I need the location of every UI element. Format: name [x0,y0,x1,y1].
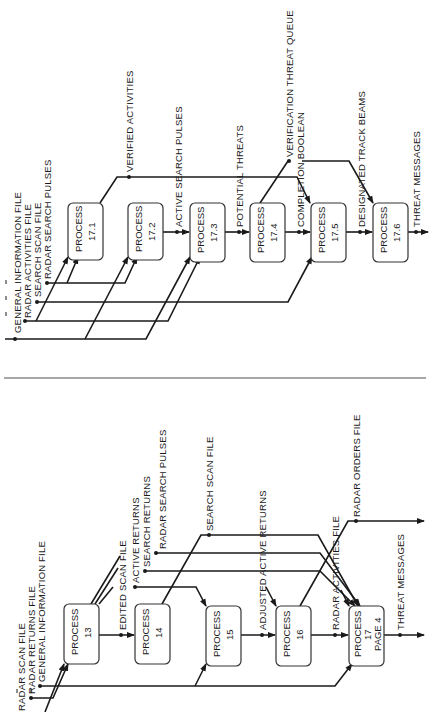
bottom-diagram: PROCESS 13 PROCESS 14 PROCESS 15 PROCESS… [16,414,424,712]
flow-general-info-to-17-2 [85,257,128,339]
top-diagram: PROCESS 17.1 PROCESS 17.2 PROCESS 17.3 P… [5,10,428,341]
flow-radar-scan-file [45,664,64,712]
junction-dot [23,319,27,323]
label-active-returns: ACTIVE RETURNS [130,497,141,583]
flow-active-returns-out [95,568,118,604]
process-label: PROCESS [133,206,144,252]
label-radar-orders-file: RADAR ORDERS FILE [351,414,362,517]
process-page-ref: PAGE 4 [372,617,383,651]
data-flow-diagram: PROCESS 17.1 PROCESS 17.2 PROCESS 17.3 P… [0,0,439,712]
label-verification-threat-queue: VERIFICATION THREAT QUEUE [284,10,295,157]
junction-dot [287,159,291,163]
process-number: 17.6 [391,224,402,243]
label-search-returns: SEARCH RETURNS [141,476,152,567]
flow-verified-activities [100,177,310,203]
label-completion-boolean: COMPLETION BOOLEAN [295,112,306,227]
flow-search-scan-file-to-17-5 [37,257,312,302]
label-verified-activities: VERIFIED ACTIVITIES [124,71,135,172]
label-designated-track-beams: DESIGNATED TRACK BEAMS [356,91,367,227]
flow-radar-search-pulses-to-17-2 [47,257,137,283]
process-box-13[interactable]: PROCESS 13 [64,604,99,664]
label-active-search-pulses: ACTIVE SEARCH PULSES [173,106,184,227]
process-box-16[interactable]: PROCESS 16 [276,606,311,666]
process-number: 16 [294,629,305,640]
junction-dot [13,337,17,341]
process-number: 17.1 [86,223,97,242]
process-number: 15 [224,629,235,640]
label-search-scan-file: SEARCH SCAN FILE [204,436,215,531]
process-label: PROCESS [211,611,222,657]
process-label: PROCESS [316,207,327,253]
process-box-17[interactable]: PROCESS 17 PAGE 4 [349,606,384,666]
process-number: 17.5 [329,224,340,243]
process-box-17-6[interactable]: PROCESS 17.6 [373,203,408,262]
process-box-17-4[interactable]: PROCESS 17.4 [250,203,285,262]
process-box-17-2[interactable]: PROCESS 17.2 [128,203,163,260]
process-number: 17.4 [268,224,279,243]
process-box-17-1[interactable]: PROCESS 17.1 [68,203,103,260]
process-label: PROCESS [73,206,84,252]
label-edited-scan-file: EDITED SCAN FILE [117,540,128,630]
label-radar-activities-file: RADAR ACTIVITIES FILE [330,516,341,630]
junction-dot [127,175,131,179]
label-general-information-file: GENERAL INFORMATION FILE [36,541,47,682]
label-threat-messages: THREAT MESSAGES [411,131,422,227]
flow-verification-threat-queue [260,161,288,203]
label-threat-messages: THREAT MESSAGES [395,534,406,630]
process-box-14[interactable]: PROCESS 14 [135,604,170,664]
process-number: 17.3 [208,224,219,243]
label-radar-search-pulses: RADAR SEARCH PULSES [42,160,53,279]
process-box-15[interactable]: PROCESS 15 [206,606,241,666]
flow-search-returns [145,571,355,606]
process-label: PROCESS [255,207,266,253]
process-label: PROCESS [69,609,80,655]
process-number: 17.2 [146,223,157,242]
process-label: PROCESS [378,207,389,253]
label-adjusted-active-returns: ADJUSTED ACTIVE RETURNS [257,490,268,630]
junction-dot [35,300,39,304]
process-label: PROCESS [281,611,292,657]
process-number: 13 [82,627,93,638]
process-number: 14 [153,627,164,638]
junction-dot [45,281,49,285]
process-box-17-5[interactable]: PROCESS 17.5 [311,203,346,262]
process-label: PROCESS [195,207,206,253]
flow-radar-search-pulses-to-17-1 [67,257,78,283]
label-radar-search-pulses: RADAR SEARCH PULSES [157,430,168,549]
process-box-17-3[interactable]: PROCESS 17.3 [190,203,225,262]
process-label: PROCESS [140,609,151,655]
label-potential-threats: POTENTIAL THREATS [234,125,245,227]
